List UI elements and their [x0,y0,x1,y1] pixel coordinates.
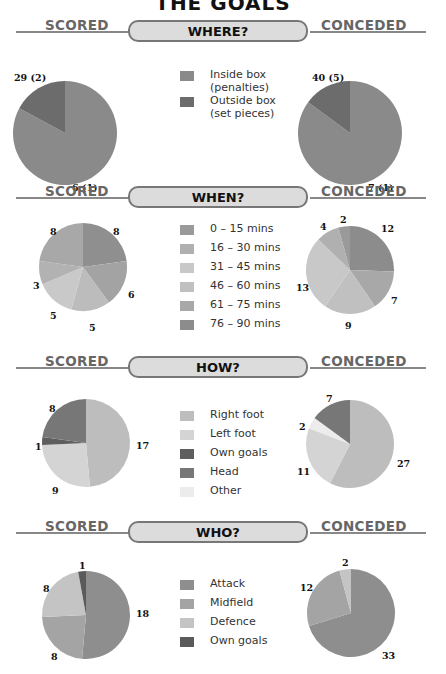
scored-label: SCORED [45,353,109,369]
pie-label-scored: 5 [50,310,57,321]
legend-label: Inside box (penalties) [210,68,269,94]
legend-swatch [180,580,194,590]
pie-label-conceded: 4 [320,221,327,232]
pie-label-scored: 6 [128,289,135,300]
legend-label: Other [210,484,241,497]
legend-swatch [180,618,194,628]
legend-label: Own goals [210,634,267,647]
pie-label-scored: 8 [43,583,50,594]
pie-slice [42,443,90,487]
legend-label: 0 – 15 mins [210,222,273,235]
pie-label-scored: 17 [136,440,149,451]
legend-swatch [180,468,194,478]
section-title: WHERE? [128,20,308,42]
pie-chart-scored-where [11,79,119,187]
legend-label: Midfield [210,596,253,609]
conceded-label: CONCEDED [321,183,407,199]
pie-label-conceded: 7 [326,393,333,404]
pie-chart-scored-who [40,569,132,661]
pie-label-scored: 3 [33,280,40,291]
legend-swatch [180,637,194,647]
section-title: HOW? [128,356,308,378]
pie-label-conceded: 27 [397,458,410,469]
pie-label-conceded: 40 (5) [312,72,344,83]
legend-label: 61 – 75 mins [210,298,280,311]
pie-label-conceded: 9 [345,320,352,331]
pie-label-scored: 8 [49,403,56,414]
pie-label-conceded: 7 [391,295,398,306]
pie-chart-conceded-how [304,398,396,490]
pie-chart-conceded-who [305,567,397,659]
scored-label: SCORED [45,183,109,199]
legend-swatch [180,282,194,292]
legend-label: 31 – 45 mins [210,260,280,273]
pie-label-scored: 5 [89,322,96,333]
pie-label-scored: 8 [113,226,120,237]
pie-label-scored: 1 [35,441,42,452]
section-header-who: SCORED CONCEDED WHO? [0,515,446,545]
section-title: WHEN? [128,186,308,208]
pie-label-conceded: 2 [299,421,306,432]
pie-label-scored: 18 [136,608,149,619]
legend-swatch [180,263,194,273]
legend-swatch [180,487,194,497]
legend-label: Attack [210,577,245,590]
pie-label-conceded: 12 [381,223,394,234]
conceded-label: CONCEDED [321,518,407,534]
legend-swatch [180,411,194,421]
pie-label-conceded: 12 [300,582,313,593]
pie-slice [82,571,130,659]
pie-label-scored: 9 [52,485,59,496]
conceded-label: CONCEDED [321,17,407,33]
pie-label-scored: 8 [51,651,58,662]
section-header-when: SCORED CONCEDED WHEN? [0,180,446,210]
legend-label: 76 – 90 mins [210,317,280,330]
legend-swatch [180,449,194,459]
legend-label: Right foot [210,408,264,421]
pie-label-conceded: 33 [382,650,395,661]
legend-label: Outside box (set pieces) [210,94,276,120]
pie-label-scored: 29 (2) [14,72,46,83]
pie-slice [39,223,83,267]
legend-label: Head [210,465,239,478]
pie-slice [42,615,86,659]
pie-slice [86,399,130,487]
pie-slice [83,223,127,267]
legend-swatch [180,244,194,254]
scored-label: SCORED [45,17,109,33]
pie-chart-conceded-when [304,224,396,316]
legend-swatch [180,430,194,440]
section-header-how: SCORED CONCEDED HOW? [0,350,446,380]
pie-label-conceded: 11 [297,466,310,477]
legend-label: 16 – 30 mins [210,241,280,254]
legend-swatch [180,71,194,81]
pie-label-conceded: 13 [296,282,309,293]
legend-swatch [180,225,194,235]
legend-label: Left foot [210,427,256,440]
legend-swatch [180,301,194,311]
legend-swatch [180,320,194,330]
legend-swatch [180,599,194,609]
legend-label: Own goals [210,446,267,459]
conceded-label: CONCEDED [321,353,407,369]
pie-label-scored: 8 [50,226,57,237]
legend-label: 46 – 60 mins [210,279,280,292]
pie-chart-conceded-where [296,79,404,187]
page-title: THE GOALS [0,0,446,15]
section-title: WHO? [128,521,308,543]
legend-swatch [180,97,194,107]
legend-label: Defence [210,615,256,628]
scored-label: SCORED [45,518,109,534]
pie-label-conceded: 2 [342,557,349,568]
pie-label-scored: 1 [79,560,86,571]
section-header-where: SCORED CONCEDED WHERE? [0,14,446,44]
pie-label-conceded: 2 [340,214,347,225]
